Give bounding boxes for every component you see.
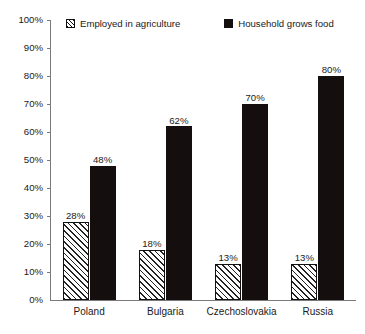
x-axis-category-label: Czechoslovakia: [207, 307, 277, 317]
y-axis-label: 60%: [24, 127, 43, 137]
bar-household-grows-food[interactable]: 48%: [90, 166, 116, 300]
y-axis-label: 50%: [24, 155, 43, 165]
bar-value-label: 28%: [66, 211, 85, 221]
bar-value-label: 13%: [219, 253, 238, 263]
bar-group-russia: 13% 80% Russia: [280, 20, 356, 300]
bar-wrap: 18%: [139, 20, 165, 300]
bar-value-label: 62%: [169, 116, 188, 126]
bar-value-label: 80%: [322, 65, 341, 75]
x-axis-category-label: Bulgaria: [147, 307, 184, 317]
bar-chart: Employed in agriculture Household grows …: [0, 0, 365, 334]
bar-wrap: 48%: [90, 20, 116, 300]
bar-employed-in-agriculture[interactable]: 13%: [215, 264, 241, 300]
bar-wrap: 28%: [63, 20, 89, 300]
bar-household-grows-food[interactable]: 70%: [242, 104, 268, 300]
bar-value-label: 48%: [93, 155, 112, 165]
y-axis-label: 30%: [24, 211, 43, 221]
bar-groups: 28% 48% Poland 18% 62: [51, 20, 356, 300]
x-axis-category-label: Russia: [303, 307, 334, 317]
bar-wrap: 62%: [166, 20, 192, 300]
bar-group-bulgaria: 18% 62% Bulgaria: [127, 20, 203, 300]
y-axis-label: 90%: [24, 43, 43, 53]
y-axis-label: 20%: [24, 239, 43, 249]
bar-group-poland: 28% 48% Poland: [51, 20, 127, 300]
bar-wrap: 80%: [318, 20, 344, 300]
y-axis-label: 0%: [29, 295, 43, 305]
bar-value-label: 18%: [142, 239, 161, 249]
bar-employed-in-agriculture[interactable]: 18%: [139, 250, 165, 300]
bar-wrap: 70%: [242, 20, 268, 300]
bar-employed-in-agriculture[interactable]: 28%: [63, 222, 89, 300]
y-axis-label: 40%: [24, 183, 43, 193]
bar-value-label: 70%: [246, 93, 265, 103]
bar-wrap: 13%: [291, 20, 317, 300]
y-axis-label: 10%: [24, 267, 43, 277]
bar-wrap: 13%: [215, 20, 241, 300]
y-axis-label: 70%: [24, 99, 43, 109]
bar-employed-in-agriculture[interactable]: 13%: [291, 264, 317, 300]
bar-group-czechoslovakia: 13% 70% Czechoslovakia: [204, 20, 280, 300]
y-axis-label: 100%: [18, 15, 43, 25]
bar-value-label: 13%: [295, 253, 314, 263]
bar-household-grows-food[interactable]: 80%: [318, 76, 344, 300]
y-axis-label: 80%: [24, 71, 43, 81]
x-axis-category-label: Poland: [74, 307, 105, 317]
plot-area: 100% 90% 80% 70% 60% 50% 40% 30% 20% 10%…: [50, 20, 356, 301]
bar-household-grows-food[interactable]: 62%: [166, 126, 192, 300]
